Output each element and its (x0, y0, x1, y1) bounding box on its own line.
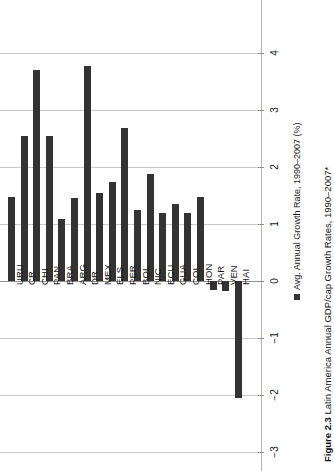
figure-number: Figure 2.3 (322, 417, 333, 462)
bar (235, 281, 242, 398)
category-label-ecu: ECU (166, 265, 175, 285)
category-label-chi: CHI (40, 268, 49, 285)
category-label-mex: MEX (103, 264, 112, 285)
value-tick-label: −2 (270, 388, 280, 402)
category-label-nic: NIC (153, 268, 162, 285)
bar (33, 70, 40, 281)
category-label-per: PER (128, 265, 137, 285)
category-axis-spine (261, 0, 262, 471)
category-label-cr: CR (27, 271, 36, 285)
category-label-par: PAR (216, 266, 225, 285)
bar (121, 128, 128, 281)
category-label-hon: HON (204, 264, 213, 285)
category-label-els: ELS (115, 267, 124, 285)
category-label-pan: PAN (52, 266, 61, 285)
tick-mark (258, 167, 264, 168)
value-tick-label: −1 (270, 331, 280, 345)
category-label-dr: DR (90, 271, 99, 285)
tick-mark (258, 338, 264, 339)
legend-series-label: Avg. Annual Growth Rate, 1990–2007 (%) (292, 123, 302, 290)
value-tick-label: 1 (270, 217, 280, 231)
figure-page: 43210−1−2−3 URUCRCHIPANBRAARGDRMEXELSPER… (0, 0, 334, 471)
chart-legend: Avg. Annual Growth Rate, 1990–2007 (%) (292, 123, 302, 300)
bar (46, 136, 53, 281)
value-tick-label: 0 (270, 274, 280, 288)
tick-mark (258, 395, 264, 396)
category-label-hai: HAI (241, 269, 250, 285)
category-label-bra: BRA (65, 265, 74, 285)
tick-mark (258, 281, 264, 282)
category-label-uru: URU (15, 264, 24, 285)
tick-mark (258, 224, 264, 225)
category-label-gua: GUA (178, 264, 187, 285)
category-label-ven: VEN (229, 265, 238, 285)
category-label-bol: BOL (141, 266, 150, 285)
chart-plot-area (0, 0, 262, 471)
bar (84, 66, 91, 281)
bars-group (0, 0, 262, 471)
value-tick-label: 4 (270, 46, 280, 60)
legend-swatch-icon (294, 294, 300, 300)
figure-caption: Figure 2.3 Latin America Annual GDP/cap … (322, 167, 333, 462)
tick-mark (258, 452, 264, 453)
tick-mark (258, 110, 264, 111)
category-label-col: COL (191, 265, 200, 285)
value-tick-label: 2 (270, 160, 280, 174)
tick-mark (258, 53, 264, 54)
bar (21, 136, 28, 281)
figure-caption-text: Latin America Annual GDP/cap Growth Rate… (322, 167, 333, 415)
value-tick-label: −3 (270, 445, 280, 459)
category-label-arg: ARG (78, 264, 87, 285)
value-tick-label: 3 (270, 103, 280, 117)
